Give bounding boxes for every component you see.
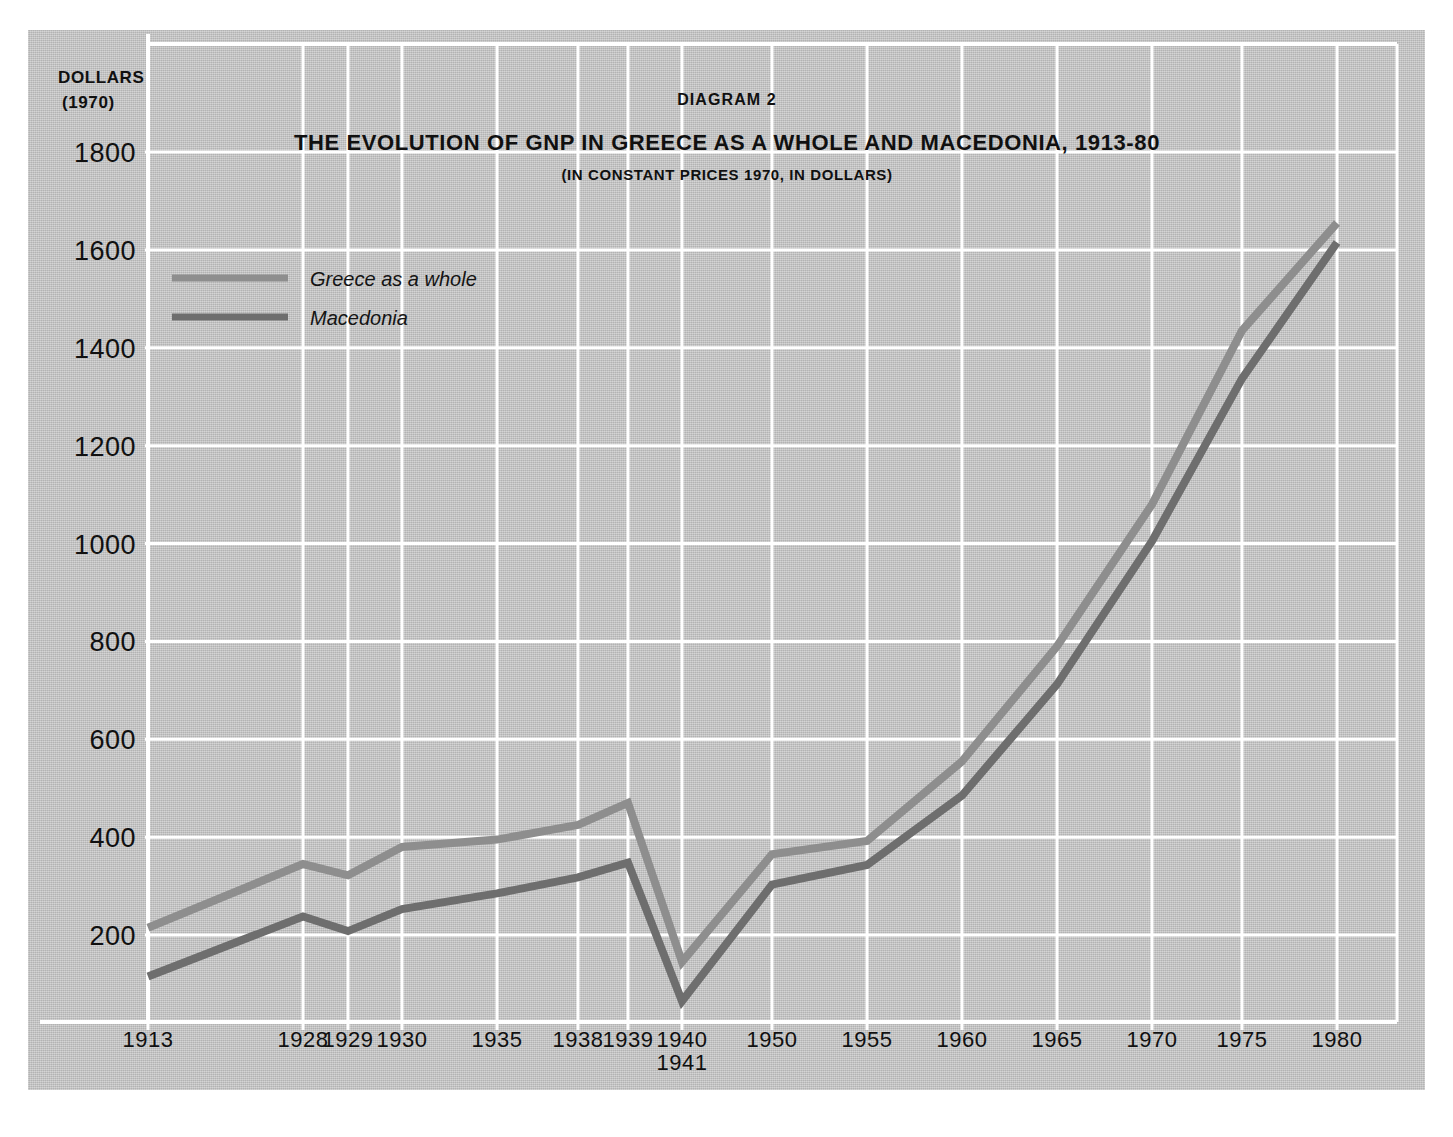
y-tick-1200: 1200 bbox=[74, 432, 136, 462]
gnp-line-chart: 20040060080010001200140016001800 1913192… bbox=[0, 0, 1453, 1137]
series-line-greece bbox=[148, 223, 1337, 962]
y-tick-200: 200 bbox=[89, 921, 136, 951]
x-tick-1950: 1950 bbox=[747, 1027, 798, 1052]
chart-canvas: 20040060080010001200140016001800 1913192… bbox=[0, 0, 1453, 1137]
x-tick-1970: 1970 bbox=[1127, 1027, 1178, 1052]
x-tick-1929: 1929 bbox=[323, 1027, 374, 1052]
x-tick-1980: 1980 bbox=[1312, 1027, 1363, 1052]
x-tick-1965: 1965 bbox=[1032, 1027, 1083, 1052]
legend-label-macedonia: Macedonia bbox=[310, 307, 408, 329]
x-tick-1930: 1930 bbox=[377, 1027, 428, 1052]
y-axis-unit-line2: (1970) bbox=[62, 93, 115, 112]
y-tick-1400: 1400 bbox=[74, 334, 136, 364]
x-tick-1928: 1928 bbox=[278, 1027, 329, 1052]
legend-label-greece: Greece as a whole bbox=[310, 268, 477, 290]
y-tick-400: 400 bbox=[89, 823, 136, 853]
data-series-group bbox=[148, 223, 1337, 1001]
x-tick-1955: 1955 bbox=[842, 1027, 893, 1052]
y-tick-800: 800 bbox=[89, 627, 136, 657]
y-tick-1600: 1600 bbox=[74, 236, 136, 266]
x-axis-tick-labels: 1913192819291930193519381939194019501955… bbox=[123, 1022, 1363, 1052]
legend: Greece as a whole Macedonia bbox=[172, 268, 477, 329]
x-tick-1913: 1913 bbox=[123, 1027, 174, 1052]
chart-title: THE EVOLUTION OF GNP IN GREECE AS A WHOL… bbox=[294, 130, 1160, 155]
figure-page: 20040060080010001200140016001800 1913192… bbox=[0, 0, 1453, 1137]
chart-subtitle: (IN CONSTANT PRICES 1970, IN DOLLARS) bbox=[561, 166, 892, 183]
x-tick-1939: 1939 bbox=[603, 1027, 654, 1052]
y-tick-1800: 1800 bbox=[74, 138, 136, 168]
y-axis-tick-labels: 20040060080010001200140016001800 bbox=[74, 138, 136, 951]
x-tick-1940: 1940 bbox=[657, 1027, 708, 1052]
x-tick-1935: 1935 bbox=[472, 1027, 523, 1052]
x-tick-1975: 1975 bbox=[1217, 1027, 1268, 1052]
x-axis-label-1941: 1941 bbox=[657, 1050, 708, 1075]
y-tick-600: 600 bbox=[89, 725, 136, 755]
x-tick-1938: 1938 bbox=[553, 1027, 604, 1052]
y-tick-1000: 1000 bbox=[74, 530, 136, 560]
y-axis-unit-line1: DOLLARS bbox=[58, 68, 144, 87]
x-tick-1960: 1960 bbox=[937, 1027, 988, 1052]
diagram-number: DIAGRAM 2 bbox=[677, 91, 777, 108]
